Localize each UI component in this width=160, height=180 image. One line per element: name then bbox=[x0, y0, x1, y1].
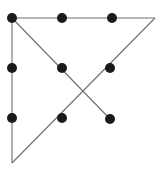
node-dot-top-left bbox=[7, 13, 17, 23]
node-dot-right-middle bbox=[105, 63, 115, 73]
node-dot-top-middle bbox=[57, 13, 67, 23]
figure-canvas bbox=[0, 0, 160, 180]
node-dot-bottom-middle bbox=[57, 113, 67, 123]
figure-svg bbox=[0, 0, 160, 180]
node-dot-left-middle bbox=[7, 63, 17, 73]
edges-group bbox=[12, 18, 155, 163]
node-dot-lower-right bbox=[105, 114, 115, 124]
node-dot-top-right-inner bbox=[107, 13, 117, 23]
node-dot-left-lower bbox=[7, 113, 17, 123]
node-dot-center bbox=[57, 63, 67, 73]
